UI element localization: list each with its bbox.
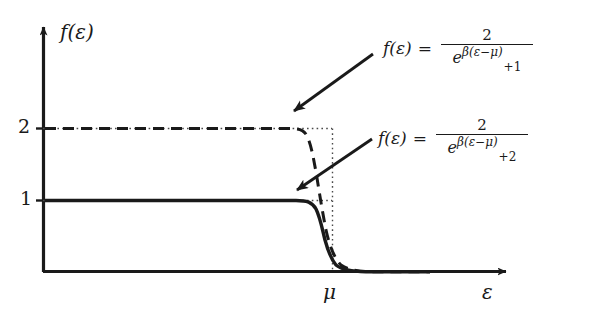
- figure-canvas: f(ε) ε μ 2 1 f(ε) = 2 eβ(ε−μ)+1 f(ε) = 2…: [0, 0, 602, 322]
- formula-lower-numerator: 2: [471, 118, 493, 134]
- formula-upper-equals: =: [418, 40, 432, 57]
- y-tick-label-1: 1: [20, 189, 32, 208]
- annotation-arrow-lower: [297, 139, 372, 190]
- formula-lower-denominator: eβ(ε−μ)+2: [444, 135, 521, 160]
- y-tick-label-2: 2: [18, 117, 30, 136]
- annotation-arrow-upper: [294, 54, 373, 111]
- formula-lower-lhs: f(ε): [378, 130, 407, 147]
- x-axis-label: ε: [482, 282, 493, 302]
- formula-upper-plus-term: +1: [504, 60, 522, 74]
- formula-lower-base: e: [448, 139, 457, 158]
- formula-lower: f(ε) = 2 eβ(ε−μ)+2: [378, 118, 528, 160]
- formula-upper: f(ε) = 2 eβ(ε−μ)+1: [383, 28, 533, 70]
- y-axis-label: f(ε): [60, 22, 94, 42]
- formula-upper-exponent: β(ε−μ): [462, 45, 503, 59]
- formula-upper-denominator: eβ(ε−μ)+1: [449, 45, 526, 70]
- formula-lower-exponent: β(ε−μ): [457, 135, 498, 149]
- formula-upper-base: e: [453, 49, 462, 68]
- formula-lower-equals: =: [413, 130, 427, 147]
- formula-lower-fraction: 2 eβ(ε−μ)+2: [436, 118, 528, 160]
- x-tick-label-mu: μ: [323, 282, 336, 302]
- formula-upper-numerator: 2: [476, 28, 498, 44]
- formula-upper-fraction: 2 eβ(ε−μ)+1: [441, 28, 533, 70]
- formula-lower-plus-term: +2: [499, 150, 517, 164]
- formula-upper-lhs: f(ε): [383, 40, 412, 57]
- solid-curve: [45, 201, 430, 272]
